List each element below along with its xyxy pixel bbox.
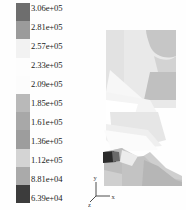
inlet-dark-halo xyxy=(112,151,120,162)
colorbar-tick-label: 1.12e+05 xyxy=(31,156,88,165)
colorbar-band xyxy=(16,185,30,203)
colorbar-band xyxy=(16,21,30,39)
colorbar-tick-label: 1.61e+05 xyxy=(31,118,88,127)
colorbar-band xyxy=(16,112,30,130)
colorbar-strip xyxy=(16,3,30,203)
colorbar-band xyxy=(16,76,30,94)
colorbar-band xyxy=(16,39,30,57)
colorbar-tick-label: 2.33e+05 xyxy=(31,61,88,70)
colorbar-band xyxy=(16,149,30,167)
colorbar-tick-label: 1.36e+05 xyxy=(31,137,88,146)
colorbar-tick-label: 6.39e+04 xyxy=(31,194,88,203)
contour-plot: x y z xyxy=(88,0,186,210)
colorbar-tick-labels: 3.06e+05 2.81e+05 2.57e+05 2.33e+05 2.09… xyxy=(31,0,88,210)
colorbar-band xyxy=(16,130,30,148)
lower-skirt-region xyxy=(103,148,182,186)
colorbar-tick-label: 2.81e+05 xyxy=(31,23,88,32)
colorbar-tick-label: 8.81e+04 xyxy=(31,175,88,184)
figure-canvas: 3.06e+05 2.81e+05 2.57e+05 2.33e+05 2.09… xyxy=(0,0,186,210)
colorbar-legend: 3.06e+05 2.81e+05 2.57e+05 2.33e+05 2.09… xyxy=(0,0,88,210)
contour-plot-svg xyxy=(88,0,186,210)
colorbar-band xyxy=(16,94,30,112)
colorbar-band xyxy=(16,3,30,21)
colorbar-band xyxy=(16,167,30,185)
colorbar-tick-label: 1.85e+05 xyxy=(31,99,88,108)
colorbar-tick-label: 3.06e+05 xyxy=(31,4,88,13)
lower-diffuser-region xyxy=(104,112,166,152)
colorbar-tick-label: 2.57e+05 xyxy=(31,42,88,51)
colorbar-tick-label: 2.09e+05 xyxy=(31,80,88,89)
colorbar-band xyxy=(16,58,30,76)
